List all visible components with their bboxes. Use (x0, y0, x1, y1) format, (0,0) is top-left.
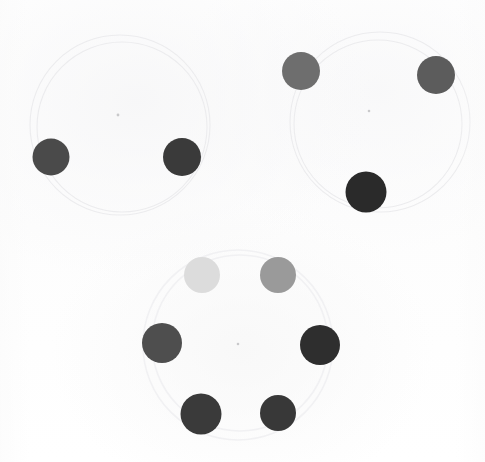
dot-1 (33, 139, 70, 176)
image-canvas (0, 0, 485, 462)
dot-10 (181, 394, 222, 435)
guide-ring-upper-left-inner (37, 42, 207, 212)
dot-layer (33, 52, 456, 435)
dot-8 (142, 323, 182, 363)
dot-5 (346, 172, 387, 213)
center-mark-upper-right (368, 110, 371, 113)
dot-6 (184, 257, 220, 293)
dot-pattern-scene (0, 0, 485, 462)
dot-2 (163, 138, 201, 176)
center-mark-upper-left (117, 114, 120, 117)
dot-9 (300, 325, 340, 365)
guide-ring-upper-left (30, 35, 210, 215)
dot-11 (260, 395, 296, 431)
center-mark-lower-center (237, 343, 240, 346)
center-mark-layer (117, 110, 371, 346)
dot-4 (417, 56, 455, 94)
dot-3 (282, 52, 320, 90)
guide-ring-layer (30, 32, 470, 440)
dot-7 (260, 257, 296, 293)
